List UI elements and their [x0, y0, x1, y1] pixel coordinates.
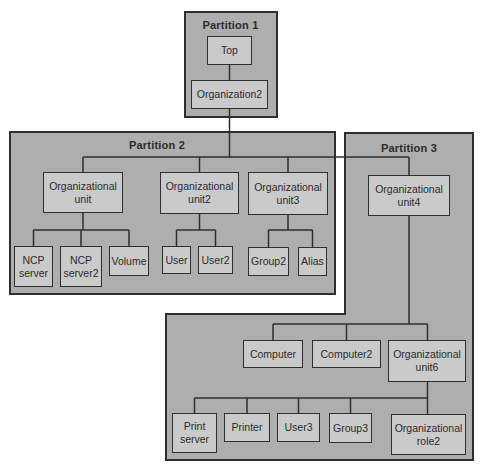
node-print-server: Print server [172, 413, 217, 453]
node-volume: Volume [109, 246, 149, 276]
node-computer2: Computer2 [312, 340, 381, 368]
diagram-background [0, 0, 480, 468]
node-ncp-server2: NCP server2 [60, 246, 102, 287]
node-organizational-unit: Organizational unit [43, 172, 123, 213]
node-user2: User2 [198, 246, 233, 274]
node-group2: Group2 [248, 247, 289, 276]
node-user3: User3 [277, 413, 320, 442]
node-organizational-unit6: Organizational unit6 [388, 340, 466, 382]
node-user: User [162, 246, 191, 274]
node-alias: Alias [298, 247, 327, 276]
node-organizational-unit3: Organizational unit3 [248, 172, 328, 215]
node-organization2: Organization2 [191, 80, 268, 109]
node-organizational-unit4: Organizational unit4 [368, 175, 450, 216]
node-organizational-unit2: Organizational unit2 [160, 172, 239, 214]
node-top: Top [207, 36, 252, 65]
partition3-title: Partition 3 [345, 142, 473, 154]
node-computer: Computer [243, 340, 303, 368]
node-ncp-server: NCP server [14, 246, 53, 287]
node-printer: Printer [224, 413, 270, 442]
node-organizational-role2: Organizational role2 [391, 414, 466, 455]
partition1-title: Partition 1 [184, 19, 277, 31]
partition2-title: Partition 2 [107, 139, 207, 151]
directory-tree-diagram: Partition 1 Partition 2 Partition 3 Top … [0, 0, 480, 468]
node-group3: Group3 [329, 413, 372, 443]
